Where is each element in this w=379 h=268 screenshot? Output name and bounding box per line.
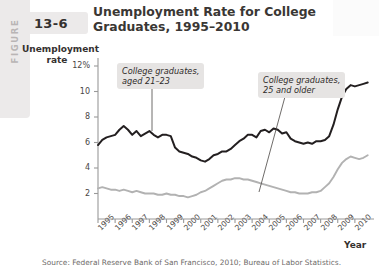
y-axis-title-line1: Unemployment (22, 44, 99, 54)
x-tick-label-2001: 2001 (199, 212, 219, 232)
x-axis-title: Year (344, 240, 366, 250)
y-tick-label-6: 6 (64, 138, 90, 147)
x-tick-label-2004: 2004 (250, 212, 270, 232)
annotation-older-line1: College graduates, (263, 75, 340, 85)
x-tick-label-1996: 1996 (113, 212, 133, 232)
x-tick-label-1998: 1998 (147, 212, 167, 232)
y-tick-label-4: 4 (64, 163, 90, 172)
x-tick-label-2002: 2002 (216, 212, 236, 232)
x-tick-label-2006: 2006 (284, 212, 304, 232)
x-tick-label-2008: 2008 (319, 212, 339, 232)
x-tick-label-2000: 2000 (182, 212, 202, 232)
annotation-young-graduates: College graduates,aged 21–23 (117, 63, 204, 89)
x-tick-label-2007: 2007 (302, 212, 322, 232)
x-tick-label-2003: 2003 (233, 212, 253, 232)
x-tick-label-1997: 1997 (130, 212, 150, 232)
x-tick-label-1995: 1995 (96, 212, 116, 232)
y-tick-label-12: 12% (64, 61, 90, 70)
series-line-older (98, 155, 368, 197)
x-tick-label-1999: 1999 (165, 212, 185, 232)
x-tick-label-2005: 2005 (267, 212, 287, 232)
x-tick-label-2009: 2009 (336, 212, 356, 232)
annotation-older-line2: 25 and older (263, 85, 315, 95)
figure-number: 13-6 (34, 16, 68, 31)
source-note: Source: Federal Reserve Bank of San Fran… (42, 258, 341, 267)
y-tick-label-10: 10 (64, 87, 90, 96)
y-tick-label-8: 8 (64, 112, 90, 121)
annotation-older-graduates: College graduates,25 and older (258, 72, 345, 98)
annotation-young-line1: College graduates, (122, 66, 199, 76)
figure-word-label: FIGURE (10, 6, 20, 76)
annotation-young-line2: aged 21–23 (122, 76, 170, 86)
y-tick-label-2: 2 (64, 189, 90, 198)
page-title: Unemployment Rate for College Graduates,… (93, 4, 353, 34)
x-tick-label-2010: 2010 (353, 212, 373, 232)
